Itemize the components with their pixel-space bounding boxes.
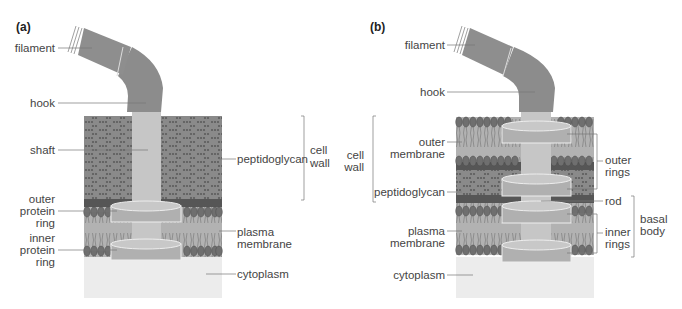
label-shaft-a: shaft bbox=[30, 144, 55, 157]
panel-a-structure bbox=[68, 26, 222, 298]
label-peptidoglycan-b: peptidoglycan bbox=[374, 186, 445, 199]
label-outer-ring-a-3: ring bbox=[36, 217, 55, 230]
panel-b-structure bbox=[454, 26, 594, 298]
label-inner-ring-a-3: ring bbox=[36, 256, 55, 269]
label-filament-b: filament bbox=[405, 39, 445, 52]
label-outer-membrane-b-2: membrane bbox=[390, 148, 445, 161]
label-cytoplasm-a: cytoplasm bbox=[237, 268, 289, 281]
label-cell-wall-a-1: cell bbox=[310, 144, 327, 157]
label-peptidoglycan-a: peptidoglycan bbox=[237, 153, 308, 166]
label-rod-b: rod bbox=[605, 195, 622, 208]
label-cytoplasm-b: cytoplasm bbox=[393, 269, 445, 282]
label-cell-wall-b-2: wall bbox=[344, 161, 364, 174]
label-plasma-a-2: membrane bbox=[237, 238, 292, 251]
label-hook-b: hook bbox=[420, 86, 445, 99]
panel-b-tag: (b) bbox=[370, 20, 385, 34]
label-outer-rings-b-2: rings bbox=[605, 166, 630, 179]
label-basal-body-b-2: body bbox=[640, 225, 665, 238]
label-inner-rings-b-2: rings bbox=[605, 238, 630, 251]
label-hook-a: hook bbox=[30, 97, 55, 110]
label-cell-wall-a-2: wall bbox=[310, 157, 330, 170]
flagellum-diagram bbox=[0, 0, 682, 309]
panel-a-tag: (a) bbox=[16, 20, 31, 34]
label-plasma-b-2: membrane bbox=[390, 237, 445, 250]
label-filament-a: filament bbox=[15, 42, 55, 55]
